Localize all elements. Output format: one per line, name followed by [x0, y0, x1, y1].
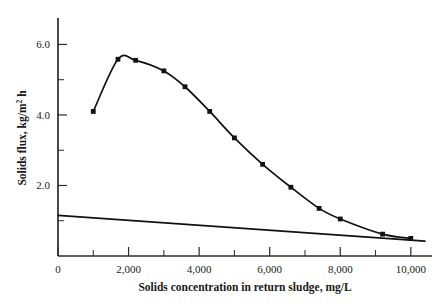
y-axis-tick-labels: 2.04.06.0 — [36, 38, 50, 191]
x-axis-tick-labels: 02,0004,0006,0008,00010,000 — [55, 263, 426, 275]
data-point-markers — [91, 57, 413, 241]
y-axis-title-tail: h — [16, 90, 28, 100]
data-point-marker — [288, 185, 293, 190]
svg-text:Solids flux, kg/m2 h: Solids flux, kg/m2 h — [15, 90, 29, 186]
x-tick-label: 10,000 — [396, 263, 427, 275]
y-axis-title-main: Solids flux, kg/m — [16, 103, 29, 186]
chart-axes — [58, 18, 432, 256]
y-tick-label: 2.0 — [36, 179, 50, 191]
data-point-marker — [91, 109, 96, 114]
y-tick-label: 6.0 — [36, 38, 50, 50]
y-axis-title: Solids flux, kg/m2 h — [15, 90, 29, 186]
data-point-marker — [207, 109, 212, 114]
y-axis-ticks — [58, 44, 67, 220]
data-point-marker — [116, 57, 121, 62]
data-point-marker — [183, 84, 188, 89]
data-point-marker — [380, 232, 385, 237]
chart-figure: 02,0004,0006,0008,00010,000 2.04.06.0 So… — [0, 0, 440, 304]
x-tick-label: 0 — [55, 263, 61, 275]
x-tick-label: 2,000 — [116, 263, 141, 275]
x-axis-ticks — [58, 247, 411, 256]
data-point-marker — [338, 217, 343, 222]
x-axis-title: Solids concentration in return sludge, m… — [138, 281, 352, 294]
data-point-marker — [317, 206, 322, 211]
data-point-marker — [161, 68, 166, 73]
data-point-marker — [133, 58, 138, 63]
data-point-marker — [260, 162, 265, 167]
solids-flux-curve — [93, 55, 411, 238]
y-tick-label: 4.0 — [36, 109, 50, 121]
chart-series-layer — [58, 55, 425, 241]
underflow-line — [58, 215, 425, 241]
x-tick-label: 8,000 — [328, 263, 353, 275]
x-tick-label: 4,000 — [187, 263, 212, 275]
data-point-marker — [408, 236, 413, 241]
data-point-marker — [232, 135, 237, 140]
solids-flux-chart: 02,0004,0006,0008,00010,000 2.04.06.0 So… — [0, 0, 440, 304]
x-tick-label: 6,000 — [257, 263, 282, 275]
